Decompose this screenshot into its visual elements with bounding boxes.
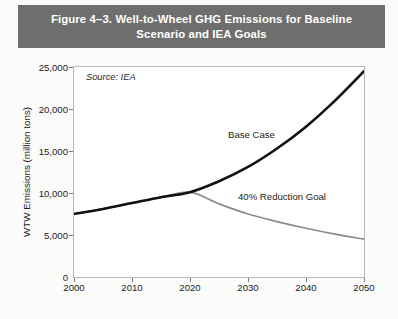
page-title: Figure 4–3. Well-to-Wheel GHG Emissions … xyxy=(32,12,371,41)
x-tick-mark xyxy=(306,278,307,282)
x-tick-label: 2000 xyxy=(63,282,84,293)
x-tick-label: 2040 xyxy=(295,282,316,293)
x-tick-mark xyxy=(190,278,191,282)
figure-title-banner: Figure 4–3. Well-to-Wheel GHG Emissions … xyxy=(18,5,385,48)
base-case-series-label: Base Case xyxy=(228,129,275,140)
y-tick-label: 10,000 xyxy=(39,188,68,199)
x-tick-label: 2050 xyxy=(353,282,374,293)
x-tick-mark xyxy=(74,278,75,282)
y-tick-label: 25,000 xyxy=(39,62,68,73)
reduction-goal-series-label: 40% Reduction Goal xyxy=(238,191,326,202)
chart-canvas xyxy=(74,67,364,277)
x-tick-mark xyxy=(248,278,249,282)
source-annotation: Source: IEA xyxy=(86,72,136,82)
y-tick-label: 5,000 xyxy=(44,230,68,241)
x-tick-label: 2020 xyxy=(179,282,200,293)
x-tick-label: 2030 xyxy=(237,282,258,293)
y-tick-label: 20,000 xyxy=(39,104,68,115)
y-axis-title: WTW Emissions (million tons) xyxy=(20,66,34,278)
figure-container: Figure 4–3. Well-to-Wheel GHG Emissions … xyxy=(0,0,398,319)
x-tick-label: 2010 xyxy=(121,282,142,293)
x-tick-mark xyxy=(364,278,365,282)
y-tick-label: 0 xyxy=(63,272,68,283)
plot-area xyxy=(73,66,365,278)
y-tick-label: 15,000 xyxy=(39,146,68,157)
x-tick-mark xyxy=(132,278,133,282)
